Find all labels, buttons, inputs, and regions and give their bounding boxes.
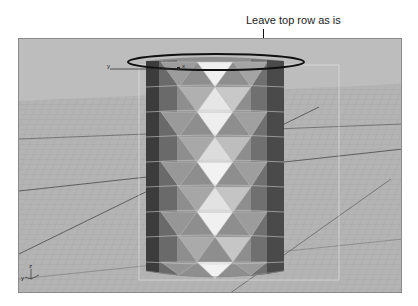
- gizmo-y-label: y: [107, 63, 110, 69]
- tripod-z-label: z: [29, 263, 32, 269]
- perspective-viewport[interactable]: y x y z: [18, 38, 402, 293]
- tripod-y-label: y: [21, 275, 24, 281]
- scene-canvas: [19, 39, 402, 293]
- gizmo-x-label: x: [182, 63, 185, 69]
- callout-label: Leave top row as is: [246, 14, 341, 26]
